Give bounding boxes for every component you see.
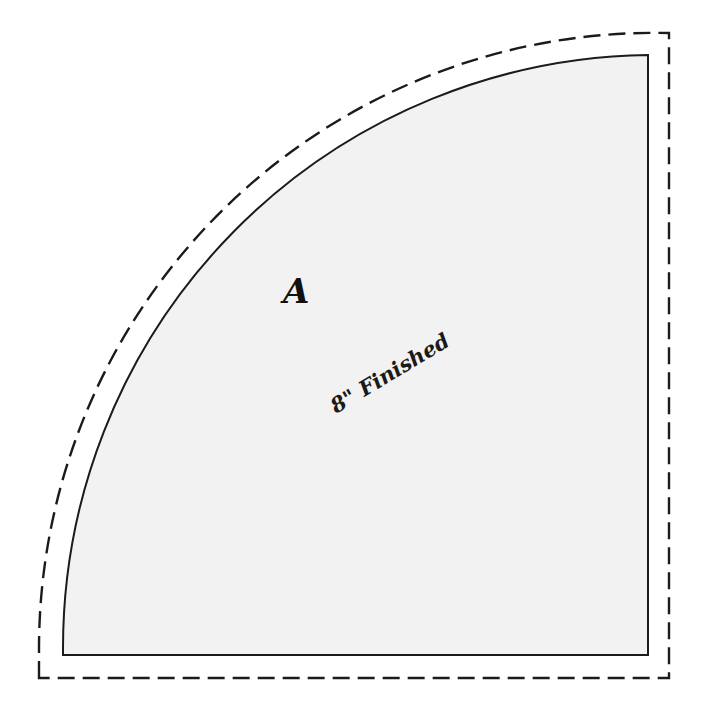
piece-letter-label: A bbox=[280, 271, 309, 311]
template-drawing: A 8" Finished bbox=[0, 0, 707, 717]
pattern-canvas: A 8" Finished bbox=[0, 0, 707, 717]
piece-fill-region bbox=[63, 55, 648, 655]
